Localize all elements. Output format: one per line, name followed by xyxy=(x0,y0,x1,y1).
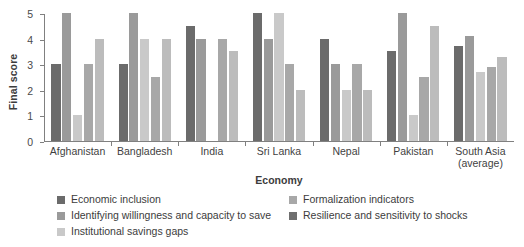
bar xyxy=(476,72,485,141)
bar xyxy=(465,36,474,141)
bar xyxy=(296,90,305,141)
bar-chart-figure: Final score 012345 AfghanistanBangladesh… xyxy=(0,0,524,247)
bar xyxy=(285,64,294,141)
bar-group xyxy=(447,14,514,141)
legend-label: Identifying willingness and capacity to … xyxy=(71,209,271,222)
x-axis-category-label: Afghanistan xyxy=(44,146,111,158)
x-axis-category-label: Sri Lanka xyxy=(245,146,312,158)
x-axis-category-label: Nepal xyxy=(313,146,380,158)
bar xyxy=(342,90,351,141)
bar xyxy=(218,39,227,141)
x-axis-category-label-line: Afghanistan xyxy=(44,146,111,158)
legend-label: Economic inclusion xyxy=(71,193,161,206)
x-axis-category-label: Pakistan xyxy=(380,146,447,158)
bar-group xyxy=(380,14,447,141)
legend-swatch-icon xyxy=(289,196,297,204)
legend-label: Formalization indicators xyxy=(303,193,414,206)
bar xyxy=(398,13,407,141)
bar xyxy=(331,64,340,141)
legend-entry[interactable]: Identifying willingness and capacity to … xyxy=(57,209,289,222)
x-axis-category-label-line: Pakistan xyxy=(380,146,447,158)
bar xyxy=(320,39,329,141)
x-axis-category-label-line: India xyxy=(178,146,245,158)
y-axis-tick-label: 4 xyxy=(27,34,33,45)
bar xyxy=(409,115,418,141)
bar xyxy=(487,67,496,141)
x-axis-category-label-line: Nepal xyxy=(313,146,380,158)
bar xyxy=(129,13,138,141)
bar xyxy=(264,39,273,141)
bar xyxy=(196,39,205,141)
legend-row: Institutional savings gaps xyxy=(57,225,517,241)
y-axis-title: Final score xyxy=(4,22,22,142)
legend-label: Resilience and sensitivity to shocks xyxy=(303,209,468,222)
bar xyxy=(387,51,396,141)
legend-entry[interactable]: Formalization indicators xyxy=(289,193,414,206)
bar xyxy=(84,64,93,141)
y-axis-tick-label: 2 xyxy=(27,86,33,97)
x-axis-category-label-line: Sri Lanka xyxy=(245,146,312,158)
bar xyxy=(73,115,82,141)
chart-legend: Economic inclusionFormalization indicato… xyxy=(57,193,517,241)
bar xyxy=(229,51,238,141)
legend-swatch-icon xyxy=(57,196,65,204)
legend-entry[interactable]: Institutional savings gaps xyxy=(57,225,289,238)
bar-group xyxy=(313,14,380,141)
bar xyxy=(454,46,463,141)
x-axis-category-label-line: (average) xyxy=(447,158,514,170)
bar xyxy=(162,39,171,141)
bar xyxy=(274,13,283,141)
bar-group xyxy=(178,14,245,141)
legend-swatch-icon xyxy=(57,212,65,220)
y-axis-tick-label: 1 xyxy=(27,111,33,122)
bar xyxy=(430,26,439,141)
y-axis-tick: 0 xyxy=(40,142,44,143)
legend-swatch-icon xyxy=(57,228,65,236)
legend-swatch-icon xyxy=(289,212,297,220)
legend-entry[interactable]: Economic inclusion xyxy=(57,193,289,206)
x-axis-line xyxy=(44,141,514,142)
bar xyxy=(151,77,160,141)
bar-group xyxy=(44,14,111,141)
bar xyxy=(186,26,195,141)
bar xyxy=(352,64,361,141)
bar xyxy=(253,13,262,141)
x-axis-category-label: India xyxy=(178,146,245,158)
x-axis-category-label-line: South Asia xyxy=(447,146,514,158)
bar xyxy=(119,64,128,141)
x-axis-category-label: South Asia(average) xyxy=(447,146,514,169)
bar xyxy=(419,77,428,141)
legend-entry[interactable]: Resilience and sensitivity to shocks xyxy=(289,209,468,222)
bar xyxy=(497,57,506,141)
bar xyxy=(62,13,71,141)
legend-label: Institutional savings gaps xyxy=(71,225,188,238)
x-axis-title: Economy xyxy=(44,174,514,186)
y-axis-tick-label: 3 xyxy=(27,60,33,71)
x-axis-category-label: Bangladesh xyxy=(111,146,178,158)
x-axis-category-label-line: Bangladesh xyxy=(111,146,178,158)
legend-row: Economic inclusionFormalization indicato… xyxy=(57,193,517,209)
y-axis-title-text: Final score xyxy=(7,54,19,111)
y-axis-tick-label: 0 xyxy=(27,137,33,148)
bar-group xyxy=(111,14,178,141)
bar-group xyxy=(245,14,312,141)
bar xyxy=(95,39,104,141)
y-axis-tick-label: 5 xyxy=(27,9,33,20)
bar xyxy=(51,64,60,141)
plot-area: 012345 xyxy=(44,14,514,142)
legend-row: Identifying willingness and capacity to … xyxy=(57,209,517,225)
bar xyxy=(363,90,372,141)
bar xyxy=(140,39,149,141)
